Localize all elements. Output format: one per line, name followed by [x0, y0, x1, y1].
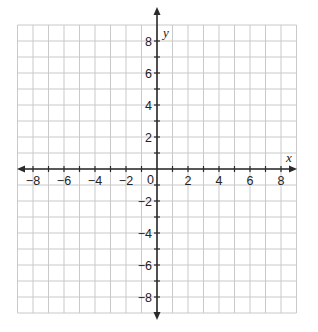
y-tick-label: −2	[138, 195, 152, 209]
y-tick-label: −8	[138, 291, 152, 305]
y-tick-label: 8	[145, 35, 152, 49]
x-tick-label: 2	[185, 174, 192, 188]
y-tick-label: 4	[145, 99, 152, 113]
x-tick-label: −8	[26, 174, 40, 188]
x-tick-label: −2	[119, 174, 133, 188]
axes	[17, 7, 297, 320]
x-axis-arrow-right-icon	[289, 166, 297, 173]
coordinate-plane: −8−6−4−224688642−2−4−6−8 x y 0	[0, 0, 318, 332]
y-tick-label: 2	[145, 131, 152, 145]
x-axis-arrow-left-icon	[17, 166, 25, 173]
x-tick-label: 4	[216, 174, 223, 188]
x-tick-label: 6	[247, 174, 254, 188]
x-tick-label: −6	[57, 174, 71, 188]
y-axis-label: y	[161, 25, 169, 40]
y-axis-arrow-up-icon	[154, 7, 161, 15]
y-tick-label: −6	[138, 259, 152, 273]
origin-label: 0	[147, 173, 154, 187]
x-tick-label: 8	[278, 174, 285, 188]
y-tick-label: 6	[145, 67, 152, 81]
x-axis-label: x	[285, 150, 292, 165]
x-tick-label: −4	[88, 174, 102, 188]
y-axis-arrow-down-icon	[154, 312, 161, 320]
y-tick-label: −4	[138, 227, 152, 241]
